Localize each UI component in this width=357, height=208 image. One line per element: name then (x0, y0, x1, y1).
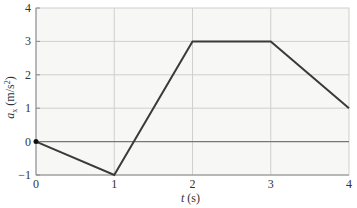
y-tick-label: 4 (25, 1, 31, 15)
x-axis-label: t (s) (181, 191, 200, 205)
x-tick-label: 2 (190, 177, 196, 191)
y-axis-label: ax (m/s2) (3, 76, 19, 118)
x-tick-label: 0 (33, 177, 39, 191)
y-tick-label: −1 (18, 168, 31, 182)
x-tick-labels: 01234 (33, 177, 352, 191)
chart: 01234 −101234 t (s) ax (m/s2) (0, 0, 357, 208)
y-axis-label-unit: (m/s (3, 84, 17, 109)
y-tick-labels: −101234 (18, 1, 31, 182)
x-tick-label: 4 (346, 177, 352, 191)
x-tick-label: 1 (111, 177, 117, 191)
x-axis-label-unit: (s) (184, 191, 200, 205)
y-tick-label: 2 (25, 68, 31, 82)
x-tick-label: 3 (268, 177, 274, 191)
start-point-marker (34, 139, 39, 144)
y-tick-label: 3 (25, 34, 31, 48)
y-tick-label: 1 (25, 101, 31, 115)
y-axis-label-unit-close: ) (3, 76, 17, 80)
y-tick-label: 0 (25, 135, 31, 149)
